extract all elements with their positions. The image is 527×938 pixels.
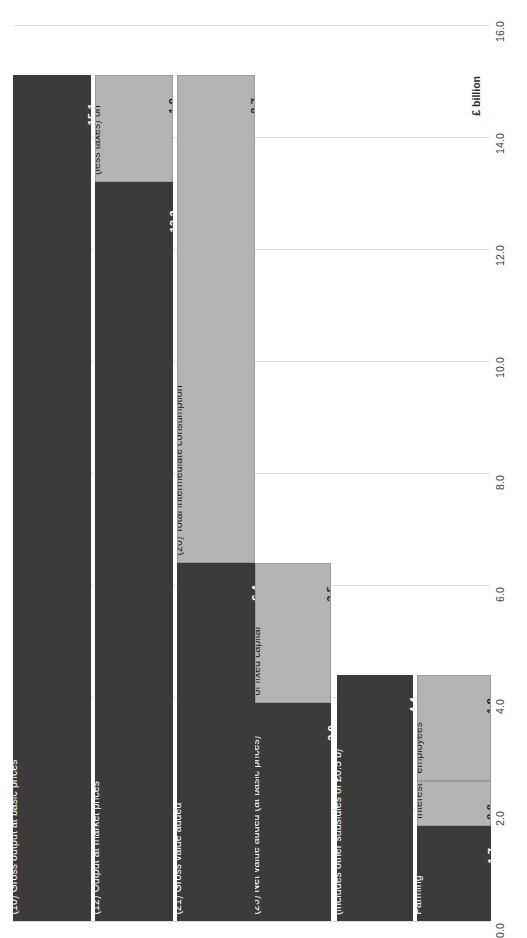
- y-axis-tick-8-label: 8.0: [494, 475, 506, 490]
- y-axis-tick-16-label: 16.0: [494, 21, 506, 42]
- y-axis-tick-0: 0.0: [494, 904, 508, 938]
- bar-segment-6-3[interactable]: (29) Total Income From Farming1.7: [417, 826, 491, 921]
- bar-segment-4-2[interactable]: (23) Net value added (at basic prices)3.…: [255, 703, 331, 921]
- bar-segment-label: (29) Total Income From Farming: [417, 852, 423, 915]
- bar-6[interactable]: (26) Compensation of employees1.9(28) Re…: [417, 675, 491, 921]
- bar-segment-value: 1.9: [485, 698, 491, 714]
- bar-segment-label: (25) Net value added at factor cost (inc…: [337, 749, 343, 915]
- y-axis-tick-2-label: 2.0: [494, 811, 506, 826]
- bar-segment-label: (23) Net value added (at basic prices): [255, 736, 261, 915]
- bar-3[interactable]: (20) Total intermediate consumption8.7(2…: [177, 75, 255, 921]
- y-axis-tick-10: 10.0: [494, 344, 508, 378]
- bar-segment-label: (10) Gross output at basic prices: [13, 760, 19, 915]
- bar-segment-label: (21) Gross value added: [177, 803, 183, 915]
- gridline-0: [13, 921, 490, 922]
- gridline-16: [13, 25, 490, 26]
- y-axis-tick-4-label: 4.0: [494, 699, 506, 714]
- bar-segment-value: 1.7: [486, 848, 491, 864]
- y-axis-tick-8: 8.0: [494, 456, 508, 490]
- bar-1[interactable]: (10) Gross output at basic prices15.1: [13, 75, 91, 921]
- bar-segment-label: (20) Total intermediate consumption: [177, 385, 184, 555]
- bar-segment-label: (22) Consumption of fixed capital: [255, 627, 262, 696]
- bar-segment-value: 15.1: [86, 104, 91, 126]
- bar-segment-label: (12) Output at market prices: [95, 781, 101, 915]
- y-axis-tick-6: 6.0: [494, 568, 508, 602]
- bar-segment-value: 8.7: [249, 98, 255, 114]
- bar-segment-value: 2.5: [325, 586, 331, 602]
- bar-segment-1-1[interactable]: (10) Gross output at basic prices15.1: [13, 75, 91, 921]
- bar-segment-value: 1.9: [167, 98, 173, 114]
- bar-segment-6-1[interactable]: (26) Compensation of employees1.9: [417, 675, 491, 781]
- y-axis-tick-14: 14.0: [494, 120, 508, 154]
- y-axis-tick-6-label: 6.0: [494, 587, 506, 602]
- bar-segment-3-2[interactable]: (21) Gross value added6.4: [177, 563, 255, 921]
- y-axis-tick-0-label: 0.0: [494, 923, 506, 938]
- bar-segment-6-2[interactable]: (28) Rent & (27) Interest0.8: [417, 781, 491, 826]
- bar-segment-value: 4.4: [408, 697, 413, 713]
- y-axis-tick-12-label: 12.0: [494, 245, 506, 266]
- bar-segment-label: (26) Compensation of employees: [417, 693, 424, 774]
- bar-segment-label: (11) Subsidies (less taxes) on: [95, 105, 102, 175]
- bar-segment-label: (28) Rent & (27) Interest: [417, 783, 424, 819]
- y-axis-tick-2: 2.0: [494, 792, 508, 826]
- bar-segment-3-1[interactable]: (20) Total intermediate consumption8.7: [177, 75, 255, 562]
- bar-segment-value: 3.9: [326, 725, 331, 741]
- y-axis-tick-10-label: 10.0: [494, 357, 506, 378]
- y-axis-tick-14-label: 14.0: [494, 133, 506, 154]
- y-axis-tick-12: 12.0: [494, 232, 508, 266]
- y-axis-tick-16: 16.0: [494, 8, 508, 42]
- bar-segment-2-1[interactable]: (11) Subsidies (less taxes) on1.9: [95, 75, 173, 181]
- y-axis-unit-label: £ billion: [470, 76, 482, 116]
- bar-segment-5-1[interactable]: (25) Net value added at factor cost (inc…: [337, 675, 413, 921]
- bar-segment-2-2[interactable]: (12) Output at market prices13.2: [95, 182, 173, 921]
- bar-2[interactable]: (11) Subsidies (less taxes) on1.9(12) Ou…: [95, 75, 173, 921]
- y-axis-tick-4: 4.0: [494, 680, 508, 714]
- bar-5[interactable]: (25) Net value added at factor cost (inc…: [337, 675, 413, 921]
- bar-segment-value: 0.8: [485, 804, 491, 820]
- bar-segment-value: 13.2: [168, 210, 173, 232]
- bar-4[interactable]: (22) Consumption of fixed capital2.5(23)…: [255, 563, 331, 921]
- bar-segment-4-1[interactable]: (22) Consumption of fixed capital2.5: [255, 563, 331, 703]
